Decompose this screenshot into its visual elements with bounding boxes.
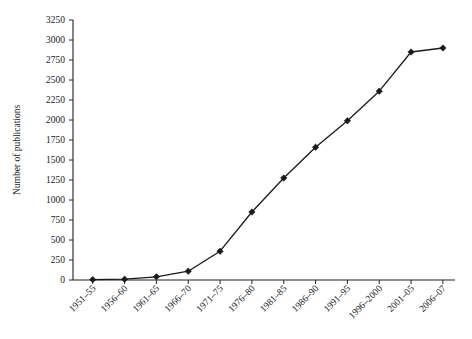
x-tick-label: 1966–70 [163, 283, 194, 314]
data-point-marker [440, 45, 446, 51]
data-point-marker [90, 276, 96, 282]
y-tick-label: 1750 [46, 135, 65, 145]
y-tick-label: 2000 [46, 115, 65, 125]
y-tick-label: 1000 [46, 195, 65, 205]
y-tick-label: 2250 [46, 95, 65, 105]
y-tick-label: 0 [60, 275, 65, 285]
publications-line-chart: 0250500750100012501500175020002250250027… [0, 0, 472, 339]
y-tick-label: 250 [51, 255, 66, 265]
y-tick-label: 750 [51, 215, 66, 225]
x-tick-label: 1951–55 [67, 283, 98, 314]
x-axis: 1951–551956–601961–651966–701971–751976–… [67, 280, 455, 321]
x-tick-label: 2001–05 [385, 283, 416, 314]
x-tick-label: 1981–85 [258, 283, 289, 314]
x-tick-label: 1996–2000 [347, 283, 384, 320]
axis-labels: Number of publications [12, 105, 22, 196]
y-tick-label: 500 [51, 235, 66, 245]
x-tick-label: 1971–75 [194, 283, 225, 314]
data-point-marker [153, 274, 159, 280]
x-tick-label: 1961–65 [131, 283, 162, 314]
y-tick-label: 1500 [46, 155, 65, 165]
x-tick-label: 1986–90 [290, 283, 321, 314]
y-axis: 0250500750100012501500175020002250250027… [46, 15, 73, 285]
y-tick-label: 3000 [46, 35, 65, 45]
data-point-marker [185, 268, 191, 274]
chart-canvas: 0250500750100012501500175020002250250027… [0, 0, 472, 339]
y-tick-label: 2750 [46, 55, 65, 65]
y-tick-label: 3250 [46, 15, 65, 25]
x-tick-label: 1976–80 [226, 283, 257, 314]
series-line-publications [93, 48, 443, 280]
y-tick-label: 2500 [46, 75, 65, 85]
x-tick-label: 1991–95 [322, 283, 353, 314]
y-tick-label: 1250 [46, 175, 65, 185]
data-point-marker [121, 276, 127, 282]
y-axis-title: Number of publications [12, 105, 22, 196]
x-tick-label: 1956–60 [99, 283, 130, 314]
x-tick-label: 2006–07 [417, 283, 448, 314]
data-series [90, 45, 447, 283]
